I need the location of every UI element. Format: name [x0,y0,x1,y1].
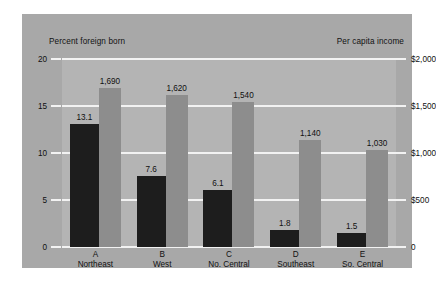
category-name: No. Central [196,260,263,270]
right-axis-title: Per capita income [337,37,404,46]
bar-value-label: 1.5 [346,222,357,231]
bar-percent-foreign-born: 13.1 [70,124,99,247]
bar-per-capita-income: 1,620 [166,95,188,247]
y2-axis-tick [396,58,406,60]
chart-panel: Percent foreign born Per capita income 0… [22,14,412,268]
y2-axis-tick-label: $500 [411,196,429,205]
bar-pair: 1.51,030 [329,59,396,247]
y-axis-tick [51,246,61,248]
bar-value-label: 6.1 [212,179,223,188]
bar-groups: 13.11,6907.61,6206.11,5401.81,1401.51,03… [62,59,396,247]
y2-axis-tick [396,246,406,248]
category-name: West [129,260,196,270]
y-axis-tick [51,105,61,107]
y2-axis-tick-label: $1,500 [411,102,436,111]
category-code: C [196,250,263,260]
category-label: CNo. Central [196,250,263,271]
y-axis-tick [51,199,61,201]
y2-axis-tick-label: $2,000 [411,55,436,64]
bar-percent-foreign-born: 1.8 [270,230,299,247]
category-label: DSoutheast [262,250,329,271]
y2-axis-tick [396,105,406,107]
bar-value-label: 1,690 [100,77,121,86]
bar-percent-foreign-born: 6.1 [203,190,232,247]
bar-percent-foreign-born: 7.6 [137,176,166,247]
bar-per-capita-income: 1,690 [99,88,121,247]
bar-value-label: 13.1 [76,113,92,122]
y2-axis-tick-label: 0 [411,243,416,252]
left-axis-title: Percent foreign born [49,37,125,46]
bar-value-label: 1,540 [233,91,254,100]
bar-percent-foreign-born: 1.5 [337,233,366,247]
y-axis-tick-label: 15 [38,102,47,111]
y2-axis-tick [396,199,406,201]
bar-pair: 1.81,140 [262,59,329,247]
bar-pair: 13.11,690 [62,59,129,247]
category-name: Northeast [62,260,129,270]
y-axis-tick-label: 5 [42,196,47,205]
bar-value-label: 1,030 [367,139,388,148]
bar-group: 13.11,690 [62,59,129,247]
bar-value-label: 1,140 [300,129,321,138]
bar-per-capita-income: 1,540 [232,102,254,247]
bar-value-label: 7.6 [145,165,156,174]
y2-axis-tick [396,152,406,154]
bar-group: 1.51,030 [329,59,396,247]
bar-group: 1.81,140 [262,59,329,247]
bar-group: 6.11,540 [196,59,263,247]
y-axis-tick [51,152,61,154]
bar-pair: 7.61,620 [129,59,196,247]
category-labels: ANortheastBWestCNo. CentralDSoutheastESo… [62,250,396,271]
category-code: B [129,250,196,260]
category-name: So. Central [329,260,396,270]
bar-value-label: 1.8 [279,219,290,228]
category-label: ESo. Central [329,250,396,271]
y-axis-tick-label: 20 [38,55,47,64]
y-axis-tick [51,58,61,60]
bar-value-label: 1,620 [166,84,187,93]
y-axis-tick-label: 0 [42,243,47,252]
category-label: BWest [129,250,196,271]
category-code: A [62,250,129,260]
bar-per-capita-income: 1,140 [299,140,321,247]
category-name: Southeast [262,260,329,270]
bar-pair: 6.11,540 [196,59,263,247]
category-code: E [329,250,396,260]
bar-group: 7.61,620 [129,59,196,247]
y2-axis-tick-label: $1,000 [411,149,436,158]
y-axis-tick-label: 10 [38,149,47,158]
category-label: ANortheast [62,250,129,271]
plot-area: 005$50010$1,00015$1,50020$2,000 13.11,69… [62,59,396,247]
category-code: D [262,250,329,260]
bar-per-capita-income: 1,030 [366,150,388,247]
